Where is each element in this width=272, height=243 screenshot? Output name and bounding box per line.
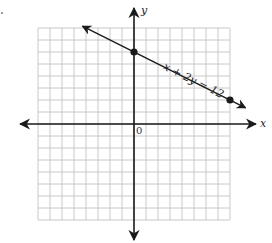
data-point <box>130 48 137 55</box>
x-axis-label: x <box>260 118 266 129</box>
axes <box>20 8 256 240</box>
y-axis-label: y <box>141 5 147 16</box>
coordinate-plane <box>0 0 272 243</box>
origin-label: 0 <box>136 126 142 136</box>
data-point <box>226 96 233 103</box>
